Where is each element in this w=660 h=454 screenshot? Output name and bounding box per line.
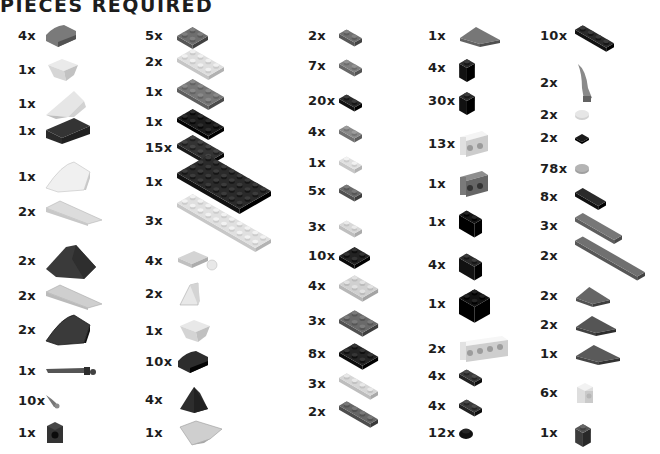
plate-2x3-icon: [338, 305, 379, 338]
quantity-label: 2x: [18, 204, 36, 219]
quantity-label: 1x: [145, 114, 163, 129]
quantity-label: 2x: [540, 248, 558, 263]
quantity-label: 2x: [308, 28, 326, 43]
quantity-label: 1x: [18, 96, 36, 111]
brick-1x1-icon: [574, 419, 592, 448]
piece-quantity: 2x: [145, 54, 163, 69]
piece-quantity: 2x: [428, 341, 446, 356]
piece-quantity: 1x: [18, 62, 36, 77]
quantity-label: 4x: [145, 253, 163, 268]
plate-1x2-clip-top-icon: [338, 179, 363, 203]
piece-quantity: 1x: [540, 425, 558, 440]
plate-1x2-clip-icon: [338, 120, 363, 144]
piece-quantity: 4x: [145, 392, 163, 407]
wedge-plate-3x6-icon: [574, 342, 624, 366]
quantity-label: 4x: [18, 28, 36, 43]
brick-1x1-round-hole-icon: [44, 421, 66, 445]
piece-quantity: 2x: [308, 28, 326, 43]
brick-2x2-icon: [458, 284, 491, 324]
quantity-label: 8x: [540, 189, 558, 204]
piece-quantity: 2x: [18, 253, 36, 268]
piece-quantity: 2x: [540, 130, 558, 145]
inverted-slope-1x2-icon: [176, 318, 214, 344]
piece-quantity: 1x: [145, 323, 163, 338]
quantity-label: 1x: [145, 425, 163, 440]
plate-teeth-icon: [338, 151, 363, 175]
brick-1x2-icon: [458, 248, 483, 282]
quantity-label: 7x: [308, 58, 326, 73]
piece-quantity: 5x: [308, 183, 326, 198]
piece-quantity: 3x: [540, 218, 558, 233]
piece-quantity: 1x: [145, 84, 163, 99]
piece-quantity: 4x: [18, 28, 36, 43]
brick-1x1-clip-icon: [458, 87, 476, 116]
quantity-label: 10x: [308, 248, 335, 263]
piece-quantity: 2x: [540, 288, 558, 303]
slope-1x2-icon: [176, 279, 202, 309]
plate-2x2-icon: [338, 242, 371, 270]
plate-2x3-icon: [338, 270, 379, 303]
quantity-label: 2x: [428, 341, 446, 356]
piece-quantity: 1x: [428, 296, 446, 311]
bar-with-stud-icon: [44, 364, 98, 378]
quantity-label: 1x: [18, 363, 36, 378]
quantity-label: 1x: [308, 155, 326, 170]
piece-quantity: 2x: [540, 107, 558, 122]
quantity-label: 1x: [540, 346, 558, 361]
slope-2x4-icon: [44, 116, 94, 146]
piece-quantity: 1x: [18, 123, 36, 138]
wedge-inverted-icon: [176, 419, 226, 447]
quantity-label: 1x: [428, 176, 446, 191]
curved-slope-2x2-icon: [176, 349, 210, 375]
piece-quantity: 4x: [428, 368, 446, 383]
piece-quantity: 3x: [308, 219, 326, 234]
piece-quantity: 1x: [540, 346, 558, 361]
quantity-label: 13x: [428, 136, 455, 151]
plate-1x2-handle-icon: [338, 215, 363, 239]
piece-quantity: 1x: [18, 169, 36, 184]
piece-quantity: 5x: [145, 28, 163, 43]
piece-quantity: 4x: [428, 60, 446, 75]
wedge-slope-dark-icon: [44, 241, 100, 281]
quantity-label: 4x: [308, 278, 326, 293]
piece-quantity: 15x: [145, 140, 172, 155]
piece-quantity: 8x: [308, 346, 326, 361]
quantity-label: 8x: [308, 346, 326, 361]
quantity-label: 4x: [428, 60, 446, 75]
piece-quantity: 1x: [18, 425, 36, 440]
piece-quantity: 30x: [428, 93, 455, 108]
quantity-label: 4x: [308, 124, 326, 139]
quantity-label: 2x: [308, 404, 326, 419]
quantity-label: 1x: [18, 169, 36, 184]
quantity-label: 2x: [18, 253, 36, 268]
quantity-label: 2x: [540, 317, 558, 332]
piece-quantity: 10x: [145, 354, 172, 369]
piece-quantity: 1x: [145, 174, 163, 189]
quantity-label: 4x: [428, 257, 446, 272]
piece-quantity: 3x: [308, 376, 326, 391]
quantity-label: 3x: [308, 313, 326, 328]
piece-quantity: 1x: [145, 114, 163, 129]
round-plate-1x1-icon: [458, 426, 474, 440]
claw-small-icon: [44, 393, 62, 409]
quantity-label: 1x: [18, 62, 36, 77]
piece-quantity: 2x: [540, 75, 558, 90]
curved-wedge-large-icon: [44, 313, 94, 347]
quantity-label: 20x: [308, 93, 335, 108]
wedge-plate-2x4-icon: [458, 24, 504, 48]
quantity-label: 3x: [308, 219, 326, 234]
quantity-label: 2x: [18, 322, 36, 337]
plate-2x3-icon: [338, 338, 379, 371]
quantity-label: 3x: [145, 213, 163, 228]
quantity-label: 15x: [145, 140, 172, 155]
piece-quantity: 2x: [18, 204, 36, 219]
quantity-label: 10x: [145, 354, 172, 369]
brick-1x2-studs-side-icon: [458, 169, 492, 199]
piece-quantity: 7x: [308, 58, 326, 73]
tile-1x1-icon: [574, 132, 590, 144]
piece-quantity: 3x: [308, 313, 326, 328]
inverted-slope-2x2-icon: [44, 57, 82, 83]
curved-wedge-icon: [44, 160, 94, 194]
piece-quantity: 1x: [18, 96, 36, 111]
quantity-label: 4x: [428, 398, 446, 413]
